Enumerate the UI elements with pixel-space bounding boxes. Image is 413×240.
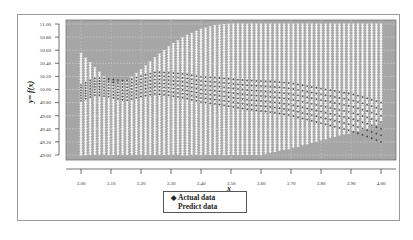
y-tick-label: 50.60 (40, 48, 52, 53)
legend-label-predict: Predict data (178, 202, 217, 211)
legend: ◆Actual data Predict data (163, 191, 247, 213)
x-tick-label: 3.00 (77, 181, 86, 186)
y-axis: 51.0050.8050.6050.4050.2050.0049.8049.60… (40, 22, 59, 158)
y-tick-label: 50.00 (40, 87, 52, 92)
x-tick-label: 3.70 (287, 181, 296, 186)
x-tick-label: 4.00 (377, 181, 386, 186)
x-tick-label: 3.30 (167, 181, 176, 186)
y-tick-label: 49.60 (40, 114, 52, 119)
y-tick-label: 50.40 (40, 61, 52, 66)
x-tick-label: 3.80 (317, 181, 326, 186)
y-tick-label: 49.80 (40, 100, 52, 105)
x-tick-label: 3.20 (137, 181, 146, 186)
x-tick-label: 3.40 (197, 181, 206, 186)
legend-label-actual: Actual data (178, 193, 215, 202)
y-tick-label: 49.00 (40, 153, 52, 158)
x-axis: 3.003.103.203.303.403.503.603.703.803.90… (66, 169, 396, 186)
x-tick-label: 3.60 (257, 181, 266, 186)
y-tick-label: 50.20 (40, 74, 52, 79)
y-tick-label: 49.20 (40, 140, 52, 145)
y-axis-label: y= f(x) (26, 81, 35, 104)
x-tick-label: 3.90 (347, 181, 356, 186)
y-tick-label: 51.00 (40, 22, 52, 27)
y-tick-label: 49.40 (40, 127, 52, 132)
y-tick-label: 50.80 (40, 35, 52, 40)
x-tick-label: 3.10 (107, 181, 116, 186)
legend-item-predict: Predict data (168, 202, 217, 212)
